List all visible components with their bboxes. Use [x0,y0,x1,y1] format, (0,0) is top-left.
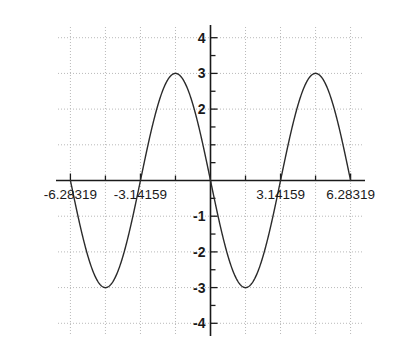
x-tick-label: -6.28319 [44,187,97,202]
y-tick-label: 4 [198,30,206,46]
y-tick-label: -3 [193,280,206,296]
y-tick-label: -4 [193,315,206,331]
y-tick-label: 3 [198,65,206,81]
sine-plot-svg: -6.28319-3.141593.141596.28319 432-1-2-3… [0,0,402,357]
chart-container: -6.28319-3.141593.141596.28319 432-1-2-3… [0,0,402,357]
x-tick-label: 6.28319 [326,187,375,202]
y-tick-label: -2 [193,244,206,260]
y-tick-label: 2 [198,101,206,117]
plot-background [0,0,402,357]
x-tick-label: 3.14159 [256,187,305,202]
x-tick-label: -3.14159 [114,187,167,202]
y-tick-label: -1 [193,208,206,224]
